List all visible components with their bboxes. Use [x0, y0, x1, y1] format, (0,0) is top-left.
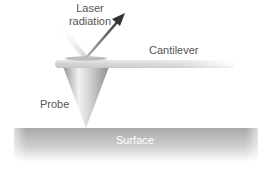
laser-incoming-beam: [58, 26, 88, 59]
cantilever-label: Cantilever: [149, 44, 199, 57]
diagram-graphic: [0, 0, 270, 175]
afm-diagram: Laser radiation Cantilever Probe Surface: [0, 0, 270, 175]
surface-label: Surface: [116, 134, 154, 147]
laser-label-line2: radiation: [67, 15, 113, 28]
probe-label: Probe: [40, 98, 69, 111]
cantilever: [55, 56, 235, 68]
laser-label-line1: Laser: [67, 2, 113, 15]
probe-cone: [62, 61, 110, 128]
laser-radiation-label: Laser radiation: [67, 2, 113, 28]
